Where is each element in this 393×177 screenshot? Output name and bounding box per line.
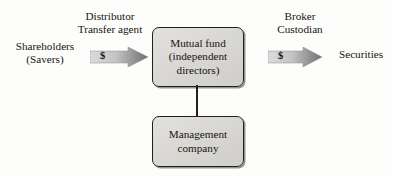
node-mutual-fund-line1: Mutual fund [169,37,227,50]
label-broker: Broker Custodian [256,10,344,36]
node-management-company-line2: company [169,142,227,155]
label-securities: Securities [330,48,392,61]
connector-line-mutual-fund-to-management [196,85,198,116]
label-securities-line1: Securities [330,48,392,61]
money-flow-arrow-right-icon [268,47,322,67]
label-distributor-line2: Transfer agent [62,23,158,36]
node-management-company-line1: Management [169,128,227,141]
node-mutual-fund-text: Mutual fund (independent directors) [169,37,227,77]
dollar-symbol-right: $ [278,50,283,61]
label-shareholders: Shareholders (Savers) [2,40,88,66]
node-mutual-fund-line3: directors) [169,64,227,77]
label-distributor: Distributor Transfer agent [62,10,158,36]
node-mutual-fund: Mutual fund (independent directors) [152,27,244,87]
label-broker-line2: Custodian [256,23,344,36]
diagram-canvas: Shareholders (Savers) Distributor Transf… [0,0,393,177]
label-shareholders-line1: Shareholders [2,40,88,53]
money-flow-arrow-left-icon [90,47,148,67]
node-management-company: Management company [152,116,244,167]
label-distributor-line1: Distributor [62,10,158,23]
node-management-company-text: Management company [169,128,227,155]
label-broker-line1: Broker [256,10,344,23]
label-shareholders-line2: (Savers) [2,53,88,66]
dollar-symbol-left: $ [100,50,105,61]
node-mutual-fund-line2: (independent [169,50,227,63]
